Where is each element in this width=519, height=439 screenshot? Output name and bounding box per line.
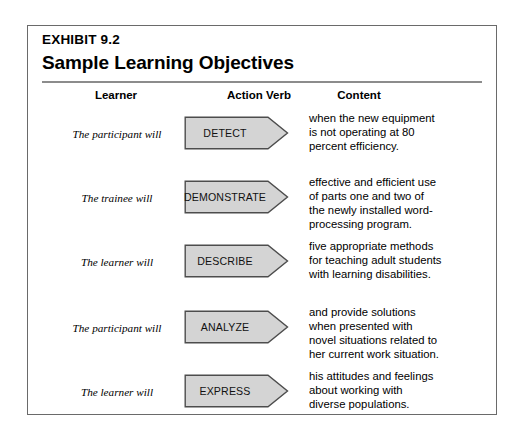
learner-text: The learner will [56,256,178,268]
action-verb-cell: DEMONSTRATE [184,180,289,214]
title-divider [42,81,482,83]
arrow-shape: ANALYZE [184,310,289,344]
content-paragraph: his attitudes and feelings about working… [309,369,489,411]
content-text: his attitudes and feelings about working… [309,369,489,411]
content-text: when the new equipment is not operating … [309,111,489,153]
action-verb-cell: ANALYZE [184,310,289,344]
action-verb-cell: DETECT [184,116,289,150]
action-verb-cell: EXPRESS [184,374,289,408]
learner-text: The trainee will [56,192,178,204]
content-text: five appropriate methods for teaching ad… [309,239,489,281]
action-verb-label: DESCRIBE [184,244,266,278]
action-verb-label: DEMONSTRATE [184,180,266,214]
exhibit-frame: EXHIBIT 9.2 Sample Learning Objectives L… [27,25,497,415]
content-paragraph: five appropriate methods for teaching ad… [309,239,489,281]
action-verb-label: DETECT [184,116,266,150]
learner-text: The learner will [56,386,178,398]
action-verb-label: EXPRESS [184,374,266,408]
column-header-content: Content [296,89,422,101]
content-paragraph: effective and efficient use of parts one… [309,175,489,231]
content-text: and provide solutions when presented wit… [309,305,489,361]
exhibit-label: EXHIBIT 9.2 [42,32,120,47]
action-verb-cell: DESCRIBE [184,244,289,278]
objective-row-1: The participant will DETECT when the new… [28,110,496,172]
arrow-shape: DESCRIBE [184,244,289,278]
learner-text: The participant will [56,322,178,334]
arrow-shape: DEMONSTRATE [184,180,289,214]
content-text: effective and efficient use of parts one… [309,175,489,231]
arrow-shape: DETECT [184,116,289,150]
content-paragraph: and provide solutions when presented wit… [309,305,489,361]
objective-row-4: The participant will ANALYZE and provide… [28,304,496,366]
exhibit-title: Sample Learning Objectives [42,52,294,74]
content-paragraph: when the new equipment is not operating … [309,111,489,153]
learner-text: The participant will [56,128,178,140]
column-header-learner: Learner [56,89,176,101]
objective-row-3: The learner will DESCRIBE five appropria… [28,238,496,300]
objective-row-5: The learner will EXPRESS his attitudes a… [28,368,496,430]
arrow-shape: EXPRESS [184,374,289,408]
action-verb-label: ANALYZE [184,310,266,344]
objective-row-2: The trainee will DEMONSTRATE effective a… [28,174,496,236]
